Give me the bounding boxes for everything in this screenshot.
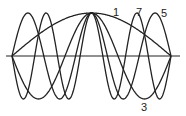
mode-label-7: 7: [136, 6, 142, 18]
mode-label-5: 5: [161, 7, 167, 19]
mode-label-3: 3: [141, 101, 147, 113]
standing-wave-diagram: 1 3 5 7: [0, 0, 186, 116]
mode-label-1: 1: [113, 6, 119, 18]
